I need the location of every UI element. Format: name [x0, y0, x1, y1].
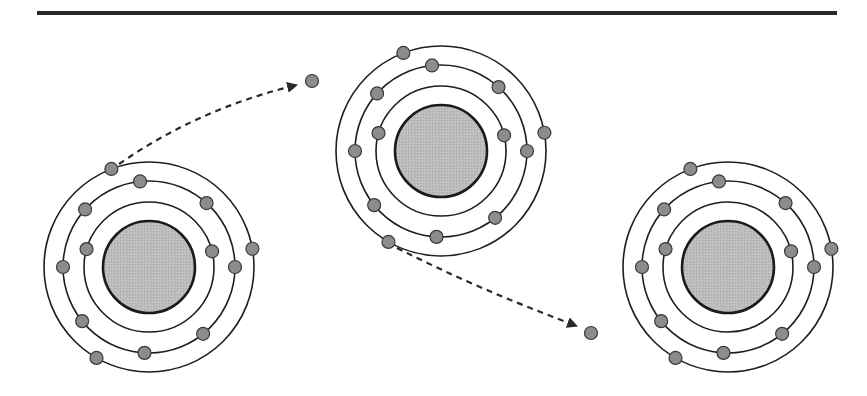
electron-shell-2	[349, 145, 362, 158]
electron-shell-2	[426, 59, 439, 72]
electron-shell-1	[498, 129, 511, 142]
electron-shell-1	[206, 245, 219, 258]
electron-shell-2	[655, 315, 668, 328]
electron-shell-2	[717, 346, 730, 359]
electron-shell-3	[246, 242, 259, 255]
atom-left	[44, 162, 259, 372]
electron-shell-2	[134, 175, 147, 188]
atom-middle	[336, 46, 551, 256]
electron-shell-3	[105, 162, 118, 175]
arrow-bottom-dashed-arrow	[397, 248, 577, 326]
diagram-stage	[0, 0, 867, 396]
electron-shell-1	[80, 243, 93, 256]
electron-shell-2	[138, 346, 151, 359]
electron-shell-2	[229, 261, 242, 274]
electron-shell-2	[713, 175, 726, 188]
electron-shell-2	[489, 211, 502, 224]
electron-shell-2	[430, 230, 443, 243]
electron-shell-2	[808, 261, 821, 274]
electron-shell-3	[684, 162, 697, 175]
electron-shell-2	[636, 261, 649, 274]
electron-shell-2	[76, 315, 89, 328]
electron-shell-2	[368, 199, 381, 212]
electron-shell-2	[776, 327, 789, 340]
atom-right	[623, 162, 838, 372]
electron-shell-1	[785, 245, 798, 258]
electron-shell-2	[371, 87, 384, 100]
electron-shell-1	[372, 127, 385, 140]
electron-shell-3	[90, 351, 103, 364]
nucleus	[395, 105, 487, 197]
electron-shell-2	[57, 261, 70, 274]
free-electron-bottom	[585, 327, 598, 340]
free-electron-top	[306, 75, 319, 88]
electron-shell-3	[538, 126, 551, 139]
electron-shell-2	[79, 203, 92, 216]
electron-shell-2	[200, 197, 213, 210]
electron-shell-3	[382, 235, 395, 248]
electron-shell-2	[779, 197, 792, 210]
nucleus	[103, 221, 195, 313]
electron-shell-3	[669, 351, 682, 364]
atoms-layer	[44, 46, 838, 372]
electron-shell-3	[397, 46, 410, 59]
electron-shell-1	[659, 243, 672, 256]
electron-shell-2	[492, 81, 505, 94]
electron-shell-2	[197, 327, 210, 340]
electron-transfer-diagram	[0, 0, 867, 396]
electron-shell-3	[825, 242, 838, 255]
arrow-top-dashed-arrow	[119, 85, 297, 164]
nucleus	[682, 221, 774, 313]
electron-shell-2	[658, 203, 671, 216]
electron-shell-2	[521, 145, 534, 158]
